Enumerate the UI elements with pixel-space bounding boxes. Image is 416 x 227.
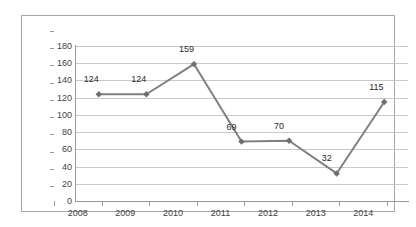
x-axis-tick-mark — [54, 201, 55, 206]
y-axis-line — [75, 45, 76, 202]
y-axis-tick-labels: 020406080100120140160180 — [41, 46, 72, 201]
y-axis-tick-label: 80 — [42, 128, 72, 137]
y-axis-tick-label: 60 — [42, 145, 72, 154]
x-axis-tick-mark — [197, 201, 198, 206]
y-axis-tick-mark — [50, 134, 54, 135]
x-axis-tick-mark — [339, 201, 340, 206]
x-axis-tick-label: 2012 — [244, 208, 292, 218]
y-axis-tick-mark — [50, 48, 54, 49]
x-axis-tick-mark — [387, 201, 388, 206]
data-point-label: 124 — [131, 75, 146, 84]
x-axis-tick-label: 2013 — [292, 208, 340, 218]
y-axis-tick-mark — [50, 31, 54, 32]
data-point-marker — [96, 91, 102, 97]
x-axis-tick-label: 2011 — [197, 208, 245, 218]
y-axis-tick-label: 100 — [42, 111, 72, 120]
data-point-label: 115 — [369, 83, 383, 92]
y-axis-tick-label: 160 — [42, 59, 72, 68]
x-axis-tick-label: 2008 — [54, 208, 102, 218]
chart-figure: 020406080100120140160180 200820092010201… — [0, 0, 416, 227]
plot-area — [75, 46, 408, 201]
y-axis-tick-mark — [50, 100, 54, 101]
line-series — [75, 46, 408, 201]
data-point-label: 32 — [322, 154, 332, 163]
data-point-label: 159 — [179, 45, 194, 54]
y-axis-tick-label: 20 — [42, 180, 72, 189]
y-axis-tick-label: 180 — [42, 42, 72, 51]
y-axis-tick-mark — [50, 83, 54, 84]
data-point-label: 124 — [84, 75, 99, 84]
x-axis-tick-mark — [292, 201, 293, 206]
y-axis-tick-label: 40 — [42, 163, 72, 172]
chart-frame: 020406080100120140160180 200820092010201… — [21, 15, 395, 212]
y-axis-tick-label: 140 — [42, 76, 72, 85]
y-axis-tick-mark — [50, 117, 54, 118]
y-axis-tick-mark — [50, 169, 54, 170]
y-axis-tick-label: 120 — [42, 94, 72, 103]
x-axis-line — [75, 201, 409, 202]
y-axis-tick-mark — [50, 186, 54, 187]
y-axis-tick-mark — [50, 65, 54, 66]
data-point-label: 69 — [227, 123, 237, 132]
x-axis-tick-label: 2010 — [149, 208, 197, 218]
x-axis-tick-mark — [102, 201, 103, 206]
y-axis-tick-mark — [50, 152, 54, 153]
data-point-label: 70 — [274, 122, 284, 131]
x-axis-tick-mark — [244, 201, 245, 206]
x-axis-tick-label: 2009 — [101, 208, 149, 218]
x-axis-tick-label: 2014 — [339, 208, 387, 218]
y-axis-tick-label: 0 — [42, 197, 72, 206]
x-axis-tick-mark — [149, 201, 150, 206]
